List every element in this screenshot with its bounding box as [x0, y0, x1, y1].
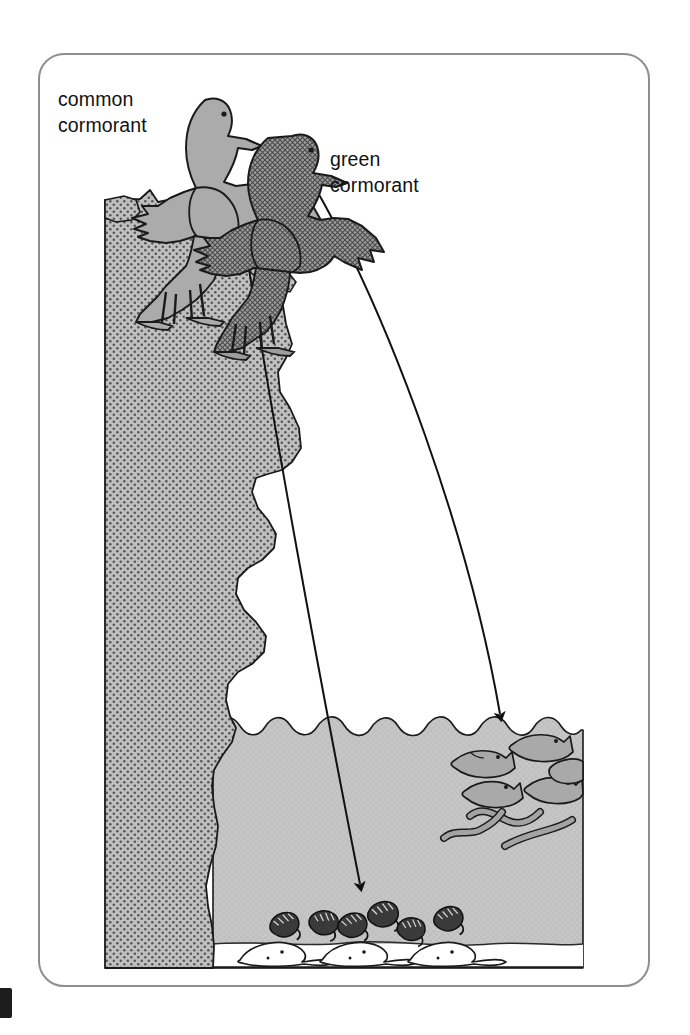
figure-root: common cormorant green cormorant [0, 0, 690, 1035]
label-green-cormorant: green cormorant [330, 146, 419, 198]
label-common-cormorant: common cormorant [58, 86, 147, 138]
page-corner-mark [0, 988, 12, 1018]
